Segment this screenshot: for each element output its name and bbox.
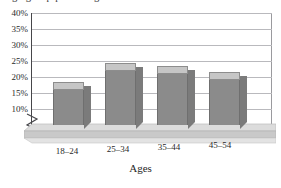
x-tick-label-35-44: 35–44 <box>145 142 193 152</box>
bar-25-34[interactable] <box>105 63 136 125</box>
bar-top-face <box>53 82 84 90</box>
bar-chart-figure: Age group percentages 40% 35% 30% 25% 20… <box>0 0 281 188</box>
bar-front-face <box>209 80 240 125</box>
x-tick-label-45-54: 45–54 <box>196 140 244 150</box>
bar-35-44[interactable] <box>157 66 188 125</box>
bar-top-face <box>157 66 188 74</box>
bar-side-face <box>240 76 247 129</box>
bar-front-face <box>157 74 188 125</box>
x-tick-label-25-34: 25–34 <box>94 144 142 154</box>
x-tick-label-18-24: 18–24 <box>43 146 91 156</box>
bar-18-24[interactable] <box>53 82 84 125</box>
bar-45-54[interactable] <box>209 72 240 125</box>
bar-front-face <box>53 90 84 125</box>
bar-side-face <box>84 86 91 129</box>
x-axis-title: Ages <box>0 162 281 174</box>
bar-top-face <box>105 63 136 71</box>
bar-top-face <box>209 72 240 80</box>
bar-side-face <box>136 67 143 129</box>
bar-side-face <box>188 70 195 129</box>
bar-front-face <box>105 71 136 125</box>
bar-series-layer <box>0 0 281 188</box>
